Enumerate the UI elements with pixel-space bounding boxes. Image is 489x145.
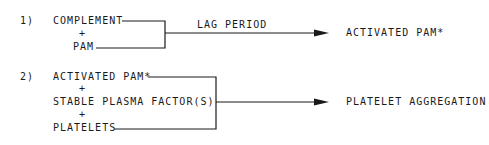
bracket-1: [96, 21, 165, 48]
arrowhead-1-icon: [314, 30, 329, 37]
connector-lines: [0, 0, 489, 145]
arrowhead-2-icon: [314, 99, 329, 106]
bracket-2: [114, 77, 216, 129]
